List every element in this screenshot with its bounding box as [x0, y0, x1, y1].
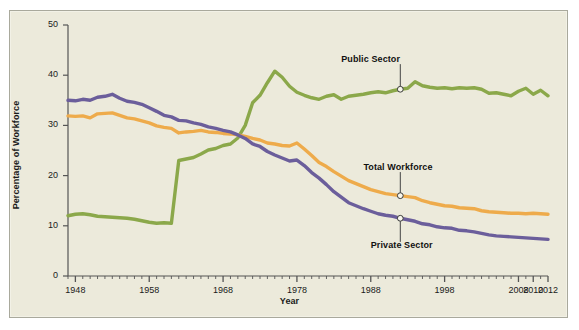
series-label-total-workforce: Total Workforce — [363, 162, 432, 172]
line-chart-plot — [0, 0, 579, 330]
chart-figure: Percentage of Workforce Year 01020304050… — [0, 0, 579, 330]
y-tick-label: 30 — [34, 119, 58, 129]
series-label-public-sector: Public Sector — [341, 54, 400, 64]
annotation-marker — [397, 86, 403, 92]
y-tick-label: 0 — [34, 270, 58, 280]
x-tick-label: 1948 — [55, 285, 95, 295]
x-axis-title: Year — [0, 296, 579, 306]
y-axis-title: Percentage of Workforce — [11, 95, 21, 215]
annotation-marker — [397, 215, 403, 221]
series-line-public-sector — [68, 71, 548, 223]
x-tick-label: 1968 — [203, 285, 243, 295]
series-line-private-sector — [68, 94, 548, 239]
y-tick-label: 20 — [34, 170, 58, 180]
y-tick-label: 50 — [34, 19, 58, 29]
series-label-private-sector: Private Sector — [371, 240, 433, 250]
x-tick-label: 1958 — [129, 285, 169, 295]
annotation-marker — [397, 193, 403, 199]
x-tick-label: 2012 — [528, 285, 568, 295]
x-tick-label: 1988 — [351, 285, 391, 295]
series-line-total-workforce — [68, 113, 548, 214]
y-axis-ticks — [63, 25, 68, 276]
x-tick-label: 1978 — [277, 285, 317, 295]
y-tick-label: 10 — [34, 220, 58, 230]
x-tick-label: 1998 — [425, 285, 465, 295]
x-axis-ticks — [68, 276, 548, 282]
y-tick-label: 40 — [34, 69, 58, 79]
